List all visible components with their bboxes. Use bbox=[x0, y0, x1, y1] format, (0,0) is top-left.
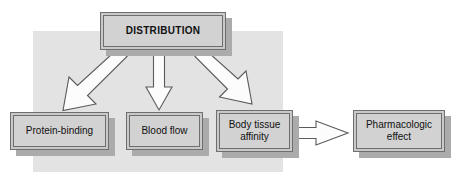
node-body-tissue-affinity[interactable]: Body tissue affinity bbox=[216, 110, 293, 152]
node-distribution-inner: DISTRIBUTION bbox=[103, 15, 223, 47]
node-body-tissue-affinity-inner: Body tissue affinity bbox=[219, 113, 290, 149]
node-blood-flow-label: Blood flow bbox=[141, 125, 187, 137]
node-distribution-label: DISTRIBUTION bbox=[126, 25, 201, 37]
node-pharmacologic-effect-label: Pharmacologic effect bbox=[366, 119, 432, 143]
arrow-distribution-to-blood-flow bbox=[146, 48, 172, 110]
arrow-distribution-to-protein-binding bbox=[63, 48, 127, 111]
node-pharmacologic-effect-inner: Pharmacologic effect bbox=[356, 113, 442, 149]
node-pharmacologic-effect[interactable]: Pharmacologic effect bbox=[353, 110, 445, 152]
node-protein-binding-label: Protein-binding bbox=[26, 125, 93, 137]
arrow-body-tissue-affinity-to-pharmacologic-effect bbox=[294, 121, 348, 145]
diagram-canvas: DISTRIBUTION Protein-binding Blood flow … bbox=[0, 0, 457, 180]
node-protein-binding[interactable]: Protein-binding bbox=[10, 112, 109, 150]
node-blood-flow[interactable]: Blood flow bbox=[126, 112, 203, 150]
node-blood-flow-inner: Blood flow bbox=[129, 115, 200, 147]
node-distribution[interactable]: DISTRIBUTION bbox=[100, 12, 226, 50]
node-body-tissue-affinity-label: Body tissue affinity bbox=[229, 119, 281, 143]
node-protein-binding-inner: Protein-binding bbox=[13, 115, 106, 147]
arrow-distribution-to-body-tissue-affinity bbox=[195, 48, 252, 104]
